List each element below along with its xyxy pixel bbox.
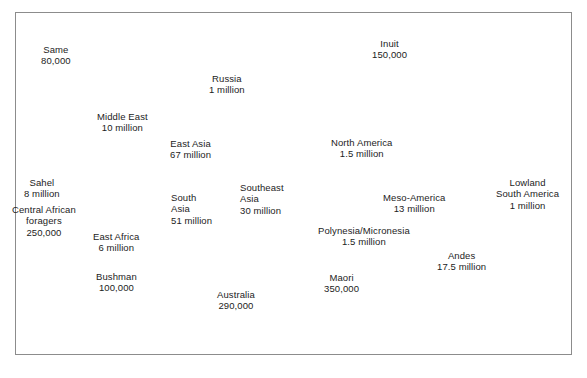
- region-label-central-african-foragers: Central African foragers 250,000: [12, 204, 76, 238]
- region-label-south-asia: South Asia 51 million: [171, 192, 212, 226]
- region-population-andes: 17.5 million: [437, 261, 486, 272]
- region-population-polynesia: 1.5 million: [318, 236, 410, 247]
- region-label-andes: Andes 17.5 million: [437, 250, 486, 273]
- region-population-north-america: 1.5 million: [331, 148, 393, 159]
- region-name-southeast-asia-line1: Southeast: [240, 182, 284, 193]
- region-label-bushman: Bushman 100,000: [96, 271, 137, 294]
- region-name-lowland-sa-line2: South America: [496, 188, 559, 199]
- region-label-east-asia: East Asia 67 million: [170, 138, 211, 161]
- region-label-same: Same 80,000: [41, 44, 71, 67]
- region-name-same: Same: [41, 44, 71, 55]
- region-name-maori: Maori: [324, 272, 359, 283]
- region-name-east-africa: East Africa: [93, 231, 140, 242]
- region-name-south-asia-line2: Asia: [171, 203, 212, 214]
- region-population-east-asia: 67 million: [170, 149, 211, 160]
- region-name-russia: Russia: [209, 73, 245, 84]
- region-label-inuit: Inuit 150,000: [372, 38, 407, 61]
- region-population-south-asia: 51 million: [171, 215, 212, 226]
- region-population-maori: 350,000: [324, 283, 359, 294]
- region-name-south-asia-line1: South: [171, 192, 212, 203]
- region-population-australia: 290,000: [217, 300, 255, 311]
- region-label-east-africa: East Africa 6 million: [93, 231, 140, 254]
- region-name-east-asia: East Asia: [170, 138, 211, 149]
- region-population-inuit: 150,000: [372, 49, 407, 60]
- region-name-caf-line1: Central African: [12, 204, 76, 215]
- region-name-bushman: Bushman: [96, 271, 137, 282]
- region-name-north-america: North America: [331, 137, 393, 148]
- region-name-inuit: Inuit: [372, 38, 407, 49]
- map-frame-border: [15, 12, 572, 355]
- region-name-caf-line2: foragers: [12, 215, 76, 226]
- region-population-sahel: 8 million: [24, 188, 60, 199]
- region-label-north-america: North America 1.5 million: [331, 137, 393, 160]
- region-population-east-africa: 6 million: [93, 242, 140, 253]
- region-name-middle-east: Middle East: [97, 111, 148, 122]
- region-label-southeast-asia: Southeast Asia 30 million: [240, 182, 284, 216]
- region-label-australia: Australia 290,000: [217, 289, 255, 312]
- region-label-polynesia-micronesia: Polynesia/Micronesia 1.5 million: [318, 225, 410, 248]
- region-name-australia: Australia: [217, 289, 255, 300]
- world-distribution-map: .coast { fill:#ffffff; stroke:#5a5a5a; s…: [0, 0, 587, 378]
- region-name-southeast-asia-line2: Asia: [240, 193, 284, 204]
- region-label-russia: Russia 1 million: [209, 73, 245, 96]
- region-label-meso-america: Meso-America 13 million: [383, 192, 445, 215]
- region-population-meso-america: 13 million: [383, 203, 445, 214]
- region-population-southeast-asia: 30 million: [240, 205, 284, 216]
- region-label-sahel: Sahel 8 million: [24, 177, 60, 200]
- region-population-same: 80,000: [41, 55, 71, 66]
- region-population-caf: 250,000: [12, 227, 76, 238]
- region-name-andes: Andes: [437, 250, 486, 261]
- region-label-lowland-south-america: Lowland South America 1 million: [496, 177, 559, 211]
- region-name-meso-america: Meso-America: [383, 192, 445, 203]
- region-label-middle-east: Middle East 10 million: [97, 111, 148, 134]
- region-label-maori: Maori 350,000: [324, 272, 359, 295]
- region-population-russia: 1 million: [209, 84, 245, 95]
- region-name-lowland-sa-line1: Lowland: [496, 177, 559, 188]
- region-name-sahel: Sahel: [24, 177, 60, 188]
- region-population-lowland-sa: 1 million: [496, 200, 559, 211]
- region-population-bushman: 100,000: [96, 282, 137, 293]
- region-population-middle-east: 10 million: [97, 122, 148, 133]
- region-name-polynesia: Polynesia/Micronesia: [318, 225, 410, 236]
